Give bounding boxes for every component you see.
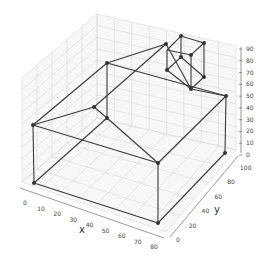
svg-text:30: 30 bbox=[70, 216, 78, 223]
svg-text:40: 40 bbox=[86, 221, 94, 228]
svg-text:70: 70 bbox=[246, 69, 254, 76]
svg-text:90: 90 bbox=[246, 45, 254, 52]
svg-text:20: 20 bbox=[53, 210, 61, 217]
svg-text:20: 20 bbox=[246, 127, 254, 134]
svg-text:0: 0 bbox=[246, 151, 250, 158]
svg-text:80: 80 bbox=[227, 178, 235, 185]
svg-text:100: 100 bbox=[240, 164, 252, 171]
svg-text:60: 60 bbox=[118, 232, 126, 239]
svg-text:40: 40 bbox=[246, 104, 254, 111]
svg-text:40: 40 bbox=[202, 207, 210, 214]
svg-text:50: 50 bbox=[246, 92, 254, 99]
svg-text:10: 10 bbox=[37, 205, 45, 212]
svg-text:50: 50 bbox=[102, 227, 110, 234]
svg-text:30: 30 bbox=[246, 116, 254, 123]
svg-text:10: 10 bbox=[246, 139, 254, 146]
svg-text:80: 80 bbox=[150, 243, 158, 250]
y-axis-label: y bbox=[214, 204, 220, 215]
x-axis-label: x bbox=[79, 224, 85, 235]
3d-plot: 0102030405060708002040608010001020304050… bbox=[0, 0, 265, 259]
svg-text:60: 60 bbox=[246, 80, 254, 87]
svg-text:0: 0 bbox=[23, 199, 27, 206]
svg-text:20: 20 bbox=[189, 222, 197, 229]
svg-text:0: 0 bbox=[176, 236, 180, 243]
svg-text:70: 70 bbox=[134, 238, 142, 245]
svg-text:60: 60 bbox=[214, 193, 222, 200]
svg-text:80: 80 bbox=[246, 57, 254, 64]
